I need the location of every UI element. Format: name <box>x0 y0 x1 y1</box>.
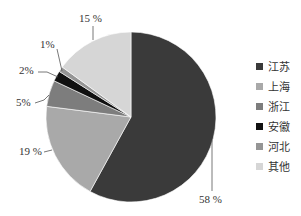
legend-item-anhui: 安徽 <box>256 116 290 136</box>
legend-swatch-icon <box>256 143 263 150</box>
legend-swatch-icon <box>256 123 263 130</box>
pie-slices <box>46 32 216 202</box>
label-anhui: 2% <box>19 64 34 76</box>
legend-swatch-icon <box>256 63 263 70</box>
legend-label: 浙江 <box>268 98 290 114</box>
legend-label: 上海 <box>268 78 290 94</box>
legend-label: 安徽 <box>268 118 290 134</box>
legend-item-shanghai: 上海 <box>256 76 290 96</box>
label-zhejiang: 5% <box>16 96 31 108</box>
legend-item-other: 其他 <box>256 156 290 176</box>
legend: 江苏 上海 浙江 安徽 河北 其他 <box>256 56 290 176</box>
label-hebei: 1% <box>40 38 55 50</box>
legend-label: 其他 <box>268 158 290 174</box>
leader-line-anhui <box>38 72 58 77</box>
legend-label: 河北 <box>268 138 290 154</box>
legend-label: 江苏 <box>268 58 290 74</box>
legend-swatch-icon <box>256 83 263 90</box>
label-other: 15 % <box>79 12 102 24</box>
legend-item-zhejiang: 浙江 <box>256 96 290 116</box>
label-jiangsu: 58 % <box>199 193 222 205</box>
legend-swatch-icon <box>256 103 263 110</box>
leader-line-zhejiang <box>35 95 49 103</box>
legend-item-jiangsu: 江苏 <box>256 56 290 76</box>
leader-line-shanghai <box>44 150 52 152</box>
label-shanghai: 19 % <box>19 145 42 157</box>
legend-item-hebei: 河北 <box>256 136 290 156</box>
leader-line-hebei <box>57 49 62 71</box>
legend-swatch-icon <box>256 163 263 170</box>
